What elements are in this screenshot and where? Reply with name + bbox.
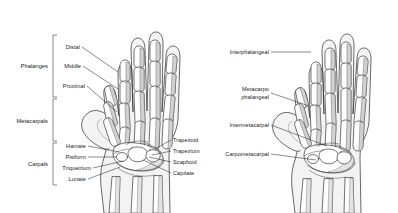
label-scaphoid: Scaphoid	[173, 159, 197, 165]
label-carpometacarpal: Carpometacarpal	[225, 151, 269, 157]
right-forearm-bones	[300, 178, 354, 213]
label-trapezium: Trapezium	[173, 148, 200, 154]
label-hamate: Hamate	[66, 143, 86, 149]
label-middle: Middle	[64, 63, 81, 69]
label-trapezoid: Trapezoid	[173, 137, 198, 143]
left-forearm-bones	[109, 176, 163, 213]
hand-anatomy-figure: Phalanges Metacarpals Carpals Distal Mid…	[0, 0, 398, 213]
label-capitate: Capitate	[173, 170, 194, 176]
label-interphalangeal: Interphalangeal	[230, 49, 269, 55]
label-proximal: Proximal	[63, 83, 85, 89]
bracket-phalanges	[53, 35, 57, 97]
label-intermetacarpal: Intermetacarpal	[229, 122, 269, 128]
label-metacarpophalangeal-line2: phalangeal	[241, 94, 269, 100]
bracket-metacarpals	[53, 99, 57, 141]
bracket-carpals	[53, 143, 57, 185]
leader-distal	[82, 47, 118, 72]
group-label-metacarpals: Metacarpals	[16, 118, 48, 124]
group-label-phalanges: Phalanges	[21, 63, 48, 69]
label-metacarpophalangeal-line1: Metacarpo	[242, 86, 269, 92]
anatomy-diagram-page: Phalanges Metacarpals Carpals Distal Mid…	[0, 0, 398, 213]
group-label-carpals: Carpals	[28, 161, 48, 167]
carpal-pisiform	[117, 153, 128, 162]
label-pisiform: Pisiform	[65, 154, 86, 160]
leader-middle	[83, 66, 118, 89]
label-lunate: Lunate	[69, 176, 86, 182]
label-distal: Distal	[66, 44, 80, 50]
carpal-trapezium	[146, 150, 160, 162]
label-triquetrium: Triquetrium	[62, 165, 91, 171]
left-hand-group-brackets	[53, 35, 57, 185]
